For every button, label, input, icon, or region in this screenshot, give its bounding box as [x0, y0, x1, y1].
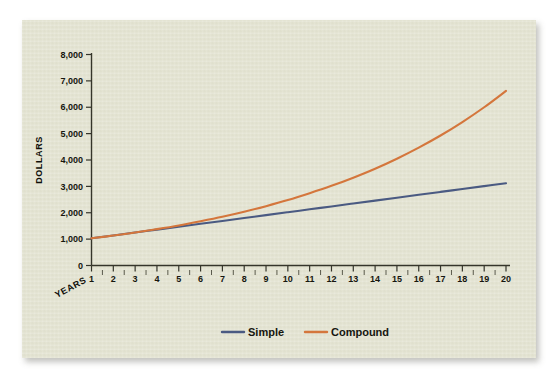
- x-tick-label: 11: [305, 274, 315, 284]
- x-tick-label: 2: [111, 274, 116, 284]
- chart-legend: SimpleCompound: [222, 326, 389, 338]
- x-tick-label: 14: [370, 274, 380, 284]
- line-chart: DOLLARS YEARS 01,0002,0003,0004,0005,000…: [0, 0, 554, 373]
- series-layer: [92, 91, 507, 238]
- x-tick-label: 12: [326, 274, 336, 284]
- x-tick-label: 6: [198, 274, 203, 284]
- y-tick-label: 1,000: [60, 234, 83, 244]
- x-tick-label: 9: [264, 274, 269, 284]
- x-tick-label: 15: [392, 274, 402, 284]
- x-tick-label: 7: [220, 274, 225, 284]
- x-tick-label: 13: [348, 274, 358, 284]
- x-tick-label: 3: [133, 274, 138, 284]
- x-tick-label: 19: [479, 274, 489, 284]
- x-tick-label: 16: [414, 274, 424, 284]
- y-axis-ticks: 01,0002,0003,0004,0005,0006,0007,0008,00…: [60, 50, 91, 271]
- x-tick-label: 18: [457, 274, 467, 284]
- y-tick-label: 3,000: [60, 182, 83, 192]
- x-tick-label: 17: [436, 274, 446, 284]
- x-tick-label: 8: [242, 274, 247, 284]
- y-tick-label: 2,000: [60, 208, 83, 218]
- x-tick-label: 10: [283, 274, 293, 284]
- y-tick-label: 8,000: [60, 50, 83, 60]
- legend-label-compound[interactable]: Compound: [331, 326, 389, 338]
- series-line-compound: [92, 91, 507, 238]
- y-tick-label: 7,000: [60, 76, 83, 86]
- x-tick-label: 20: [501, 274, 511, 284]
- screenshot-root: DOLLARS YEARS 01,0002,0003,0004,0005,000…: [0, 0, 554, 373]
- x-tick-label: 5: [176, 274, 181, 284]
- x-axis-ticks: 1234567891011121314151617181920: [89, 266, 511, 285]
- x-axis-title: YEARS: [53, 275, 88, 300]
- y-tick-label: 4,000: [60, 155, 83, 165]
- y-tick-label: 0: [78, 261, 83, 271]
- legend-label-simple[interactable]: Simple: [248, 326, 284, 338]
- axes: [92, 53, 511, 266]
- y-tick-label: 6,000: [60, 102, 83, 112]
- y-tick-label: 5,000: [60, 129, 83, 139]
- y-axis-title: DOLLARS: [34, 136, 44, 184]
- x-tick-label: 4: [154, 274, 159, 284]
- x-tick-label: 1: [89, 274, 94, 284]
